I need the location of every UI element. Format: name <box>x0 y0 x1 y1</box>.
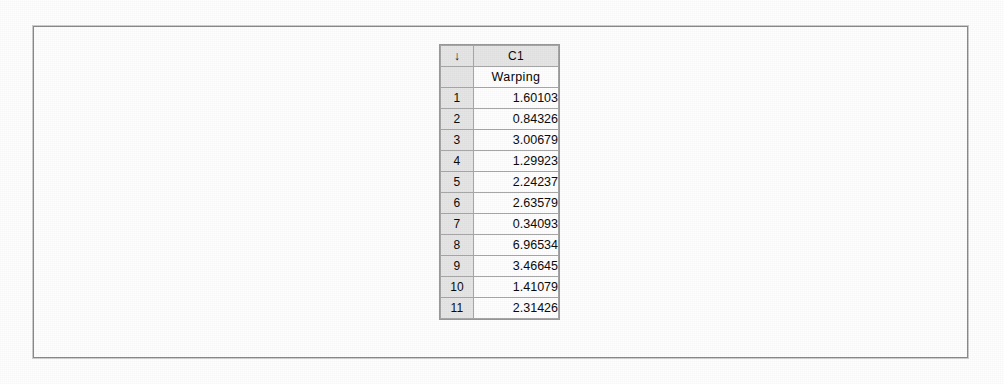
table-row[interactable]: 6 2.63579 <box>441 193 559 214</box>
table-row[interactable]: 4 1.29923 <box>441 151 559 172</box>
table-row[interactable]: 5 2.24237 <box>441 172 559 193</box>
figure-frame: ↓ C1 Warping 1 1.60103 2 0.84326 3 3.006… <box>33 26 968 358</box>
row-number[interactable]: 7 <box>441 214 474 235</box>
cell-warping[interactable]: 0.84326 <box>474 109 559 130</box>
table-row[interactable]: 11 2.31426 <box>441 298 559 319</box>
table-row[interactable]: 10 1.41079 <box>441 277 559 298</box>
cell-warping[interactable]: 1.29923 <box>474 151 559 172</box>
down-arrow-glyph: ↓ <box>454 50 460 63</box>
row-number[interactable]: 2 <box>441 109 474 130</box>
row-number[interactable]: 4 <box>441 151 474 172</box>
select-all-down-arrow-icon[interactable]: ↓ <box>441 46 474 67</box>
table-row[interactable]: 9 3.46645 <box>441 256 559 277</box>
row-number[interactable]: 1 <box>441 88 474 109</box>
cell-warping[interactable]: 3.46645 <box>474 256 559 277</box>
cell-warping[interactable]: 6.96534 <box>474 235 559 256</box>
cell-warping[interactable]: 1.60103 <box>474 88 559 109</box>
worksheet-header-row-column-label: Warping <box>441 67 559 88</box>
table-row[interactable]: 7 0.34093 <box>441 214 559 235</box>
table-row[interactable]: 3 3.00679 <box>441 130 559 151</box>
row-number[interactable]: 3 <box>441 130 474 151</box>
row-number[interactable]: 10 <box>441 277 474 298</box>
worksheet-table[interactable]: ↓ C1 Warping 1 1.60103 2 0.84326 3 3.006… <box>440 45 559 319</box>
column-label-warping[interactable]: Warping <box>474 67 559 88</box>
column-header-c1[interactable]: C1 <box>474 46 559 67</box>
cell-warping[interactable]: 2.24237 <box>474 172 559 193</box>
table-row[interactable]: 2 0.84326 <box>441 109 559 130</box>
row-number[interactable]: 8 <box>441 235 474 256</box>
cell-warping[interactable]: 2.63579 <box>474 193 559 214</box>
row-number[interactable]: 6 <box>441 193 474 214</box>
row-label-corner-cell <box>441 67 474 88</box>
cell-warping[interactable]: 3.00679 <box>474 130 559 151</box>
table-row[interactable]: 1 1.60103 <box>441 88 559 109</box>
worksheet-header-row-column-id: ↓ C1 <box>441 46 559 67</box>
cell-warping[interactable]: 2.31426 <box>474 298 559 319</box>
cell-warping[interactable]: 1.41079 <box>474 277 559 298</box>
row-number[interactable]: 5 <box>441 172 474 193</box>
table-row[interactable]: 8 6.96534 <box>441 235 559 256</box>
cell-warping[interactable]: 0.34093 <box>474 214 559 235</box>
row-number[interactable]: 11 <box>441 298 474 319</box>
row-number[interactable]: 9 <box>441 256 474 277</box>
worksheet-body: ↓ C1 Warping 1 1.60103 2 0.84326 3 3.006… <box>441 46 559 319</box>
